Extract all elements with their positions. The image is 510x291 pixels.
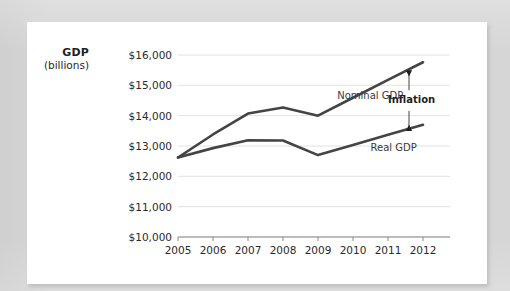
x-tick-label: 2006: [200, 244, 227, 256]
x-tick-label: 2009: [305, 244, 332, 256]
x-tick-label: 2007: [235, 244, 262, 256]
y-tick-label: $16,000: [106, 49, 172, 61]
y-tick-label: $15,000: [106, 79, 172, 91]
x-tick-label: 2008: [270, 244, 297, 256]
series-label-real-gdp: Real GDP: [371, 142, 417, 153]
annotation-label-inflation: Inflation: [388, 94, 435, 105]
x-tick-label: 2010: [340, 244, 367, 256]
x-tick-label: 2011: [375, 244, 402, 256]
y-tick-label: $11,000: [106, 201, 172, 213]
gdp-line-chart: GDP (billions) $10,000$11,000$12,000$13,…: [27, 22, 487, 284]
x-tick-label: 2005: [165, 244, 192, 256]
x-tick-marks: [178, 237, 423, 241]
y-tick-label: $13,000: [106, 140, 172, 152]
chart-card: GDP (billions) $10,000$11,000$12,000$13,…: [27, 22, 487, 284]
y-tick-label: $12,000: [106, 170, 172, 182]
y-tick-label: $14,000: [106, 110, 172, 122]
x-tick-label: 2012: [410, 244, 437, 256]
y-tick-label: $10,000: [106, 231, 172, 243]
